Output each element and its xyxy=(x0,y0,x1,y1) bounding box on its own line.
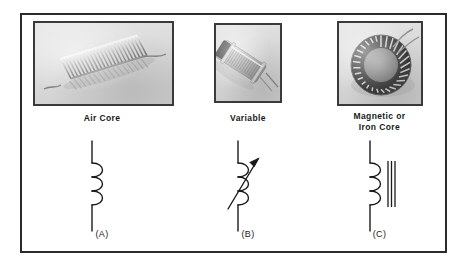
panel-air-core: Air Core (A) xyxy=(22,15,182,251)
photo-grain-overlay xyxy=(216,25,280,101)
symbol-air-core-inductor xyxy=(74,139,130,235)
figure-label-c: (C) xyxy=(314,229,445,239)
caption-magnetic-iron-core: Magnetic or Iron Core xyxy=(314,111,445,133)
figure-label-b: (B) xyxy=(182,229,314,239)
photo-grain-overlay xyxy=(35,23,172,104)
symbol-variable-inductor xyxy=(220,139,276,235)
photo-grain-overlay xyxy=(339,23,421,104)
panel-magnetic-iron-core: Magnetic or Iron Core xyxy=(314,15,445,251)
variable-inductor-svg xyxy=(220,139,276,235)
inductor-types-figure: Air Core (A) xyxy=(0,0,462,266)
caption-air-core: Air Core xyxy=(22,113,182,124)
photo-iron-core xyxy=(337,21,423,106)
caption-variable: Variable xyxy=(182,113,314,124)
panel-variable: Variable (B) xyxy=(182,15,314,251)
photo-variable xyxy=(214,23,282,103)
variability-arrow-icon xyxy=(228,159,258,209)
air-core-inductor-svg xyxy=(74,139,130,235)
figure-border: Air Core (A) xyxy=(20,13,447,253)
symbol-iron-core-inductor xyxy=(352,139,408,235)
iron-core-lines-icon xyxy=(388,161,395,207)
iron-core-inductor-svg xyxy=(352,139,408,235)
figure-label-a: (A) xyxy=(22,229,182,239)
photo-air-core xyxy=(33,21,174,106)
